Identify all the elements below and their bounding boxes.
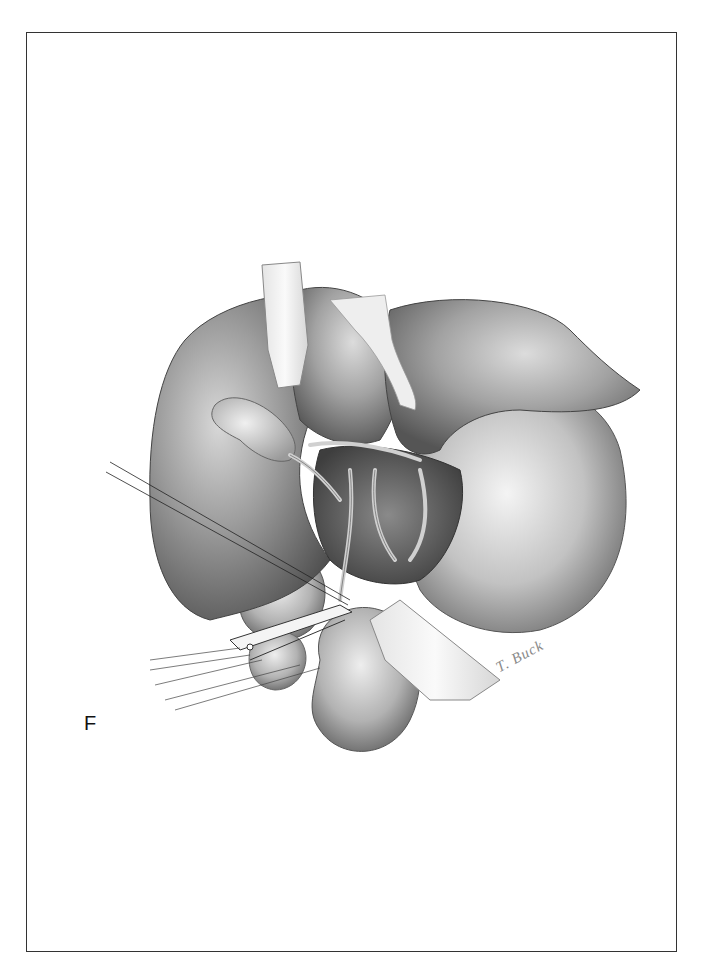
panel-label: F bbox=[84, 712, 96, 735]
surgical-illustration bbox=[0, 0, 705, 966]
